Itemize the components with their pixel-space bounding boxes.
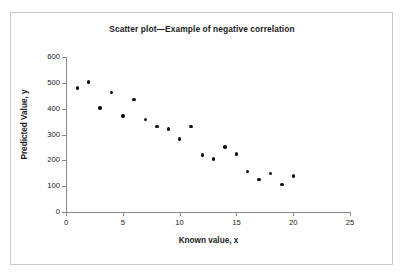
y-tick-label: 100 [18,181,60,191]
x-tick-label: 0 [54,218,78,229]
x-tick-label-text: 20 [281,218,305,227]
data-point [121,114,124,117]
scatter-plot-figure: Scatter plot—Example of negative correla… [0,0,404,278]
y-tick-label-text: 500 [20,78,60,87]
y-tick-label-text: 100 [20,181,60,190]
data-point [155,125,158,128]
data-point [257,178,260,181]
x-tick-label: 10 [168,218,192,229]
x-tick-label: 25 [338,218,362,229]
x-tick-mark [293,212,294,216]
data-point [269,172,272,175]
data-point [167,127,170,130]
y-tick-label: 500 [18,78,60,88]
x-tick-mark [350,212,351,216]
x-tick-mark [66,212,67,216]
x-tick-label: 5 [111,218,135,229]
data-point [292,174,295,177]
x-tick-label: 20 [281,218,305,229]
x-tick-mark [236,212,237,216]
x-tick-label-text: 15 [224,218,248,227]
data-point [189,125,192,128]
data-point [98,106,101,109]
data-point [223,145,226,148]
y-tick-label-text: 600 [20,52,60,61]
data-point [76,86,79,89]
y-tick-label-text: 0 [20,207,60,216]
data-point [201,153,204,156]
x-axis-title: Known value, x [66,236,351,245]
y-tick-label-text: 300 [20,130,60,139]
y-tick-label: 0 [18,207,60,217]
x-tick-mark [180,212,181,216]
y-tick-label-text: 400 [20,104,60,113]
y-tick-label: 600 [18,52,60,62]
x-tick-mark [123,212,124,216]
x-tick-label-text: 0 [54,218,78,227]
x-axis-line [66,212,351,213]
x-tick-label-text: 25 [338,218,362,227]
data-point [280,183,283,186]
plot-area [66,57,350,212]
data-point [235,152,238,155]
y-tick-label: 300 [18,130,60,140]
x-tick-label-text: 5 [111,218,135,227]
chart-title: Scatter plot—Example of negative correla… [0,24,404,34]
x-tick-label-text: 10 [168,218,192,227]
y-tick-label-text: 200 [20,155,60,164]
y-tick-label: 200 [18,155,60,165]
y-tick-label: 400 [18,104,60,114]
x-tick-label: 15 [224,218,248,229]
